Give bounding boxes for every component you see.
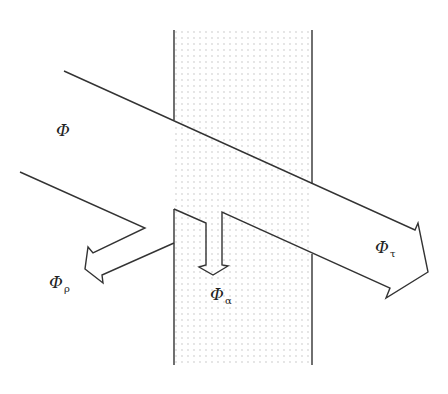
reflected-flux-subscript: ρ bbox=[64, 283, 70, 294]
transmitted-flux-symbol: Φ bbox=[375, 237, 389, 257]
absorbed-flux-symbol: Φ bbox=[210, 284, 224, 304]
transmitted-flux-label: Φτ bbox=[375, 239, 395, 259]
medium-layer bbox=[174, 30, 312, 365]
transmitted-flux-subscript: τ bbox=[390, 248, 396, 259]
reflected-arrow bbox=[20, 172, 174, 283]
flux-diagram bbox=[0, 0, 448, 394]
reflected-flux-label: Φρ bbox=[49, 274, 70, 294]
absorbed-flux-subscript: α bbox=[225, 295, 232, 306]
incident-flux-label: Φ bbox=[56, 122, 71, 142]
reflected-flux-symbol: Φ bbox=[49, 272, 63, 292]
incident-flux-symbol: Φ bbox=[56, 120, 70, 140]
absorbed-flux-label: Φα bbox=[210, 286, 232, 306]
